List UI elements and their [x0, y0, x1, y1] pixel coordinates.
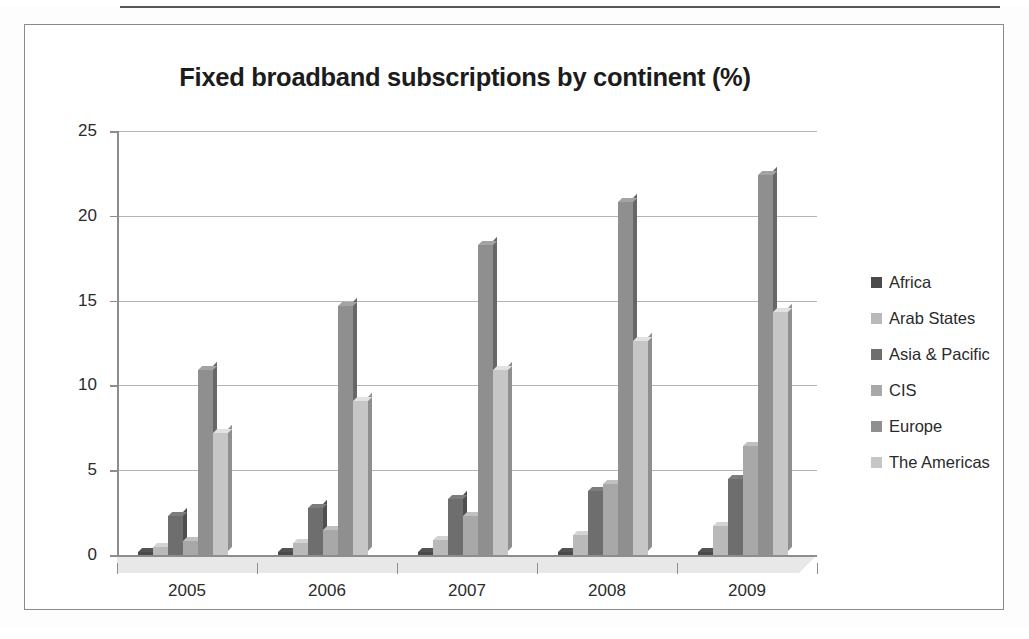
bar	[448, 499, 463, 555]
plot-area	[117, 131, 817, 555]
bar-side	[788, 304, 792, 551]
bar	[323, 530, 338, 555]
bar	[183, 541, 198, 555]
y-axis-tick	[110, 301, 117, 303]
bar-face	[338, 306, 353, 555]
bar	[588, 491, 603, 555]
bar-face	[183, 541, 198, 555]
bar-face	[198, 370, 213, 555]
x-axis-tick-label: 2009	[692, 581, 802, 601]
bar-face	[353, 401, 368, 555]
legend-item[interactable]: The Americas	[871, 453, 1021, 471]
x-axis-tick	[677, 563, 678, 574]
bar-face	[213, 433, 228, 555]
bar	[168, 516, 183, 555]
x-axis-labels: 20052006200720082009	[117, 581, 817, 609]
bar	[278, 552, 293, 555]
bar-face	[603, 484, 618, 555]
bar	[308, 508, 323, 555]
x-axis-tick	[117, 563, 118, 574]
legend-item[interactable]: Asia & Pacific	[871, 345, 1021, 363]
bar-face	[493, 370, 508, 555]
x-axis-tick	[257, 563, 258, 574]
chart-frame: Fixed broadband subscriptions by contine…	[24, 24, 1004, 610]
bar-face	[633, 341, 648, 555]
y-axis-line	[117, 131, 119, 555]
bar	[728, 479, 743, 555]
y-axis-tick-label: 0	[51, 545, 97, 565]
legend-swatch-icon	[871, 349, 882, 360]
bar-group	[278, 131, 368, 555]
bar	[198, 370, 213, 555]
bar	[773, 312, 788, 555]
bar	[338, 306, 353, 555]
x-axis-tick-label: 2007	[412, 581, 522, 601]
legend-swatch-icon	[871, 313, 882, 324]
bar-side	[508, 362, 512, 551]
bar-face	[323, 530, 338, 555]
legend-item[interactable]: Europe	[871, 417, 1021, 435]
legend-item-label: CIS	[889, 381, 917, 400]
bar-face	[153, 547, 168, 555]
chart-title: Fixed broadband subscriptions by contine…	[25, 63, 905, 92]
y-axis-tick	[110, 555, 117, 557]
bar-group	[418, 131, 508, 555]
scan-margin-bottom	[0, 628, 1029, 639]
bar	[713, 526, 728, 555]
bar-face	[588, 491, 603, 555]
x-axis-tick-label: 2006	[272, 581, 382, 601]
y-axis-tick	[110, 131, 117, 133]
legend-item[interactable]: Arab States	[871, 309, 1021, 327]
bar-face	[308, 508, 323, 555]
bar-face	[743, 446, 758, 555]
bar-face	[698, 552, 713, 555]
bar-face	[278, 552, 293, 555]
bar	[418, 552, 433, 555]
bar-group	[698, 131, 788, 555]
bar-face	[573, 535, 588, 555]
bar-face	[293, 543, 308, 555]
bar	[618, 202, 633, 555]
bar-face	[168, 516, 183, 555]
scan-rule-line	[120, 6, 1000, 8]
legend-swatch-icon	[871, 277, 882, 288]
x-axis-tick	[397, 563, 398, 574]
x-axis-tick-label: 2005	[132, 581, 242, 601]
bar	[353, 401, 368, 555]
chart-legend: AfricaArab StatesAsia & PacificCISEurope…	[871, 273, 1021, 489]
bar	[293, 543, 308, 555]
bar	[463, 516, 478, 555]
y-axis-labels: 0510152025	[51, 131, 97, 555]
y-axis-tick	[110, 216, 117, 218]
y-axis-tick-label: 15	[51, 291, 97, 311]
legend-swatch-icon	[871, 421, 882, 432]
y-axis-tick	[110, 470, 117, 472]
x-axis-tick	[817, 563, 818, 574]
x-axis-tick	[537, 563, 538, 574]
bar	[698, 552, 713, 555]
bar	[743, 446, 758, 555]
bar-face	[618, 202, 633, 555]
legend-swatch-icon	[871, 457, 882, 468]
legend-item-label: Europe	[889, 417, 942, 436]
bar-face	[713, 526, 728, 555]
bar-face	[463, 516, 478, 555]
legend-item[interactable]: CIS	[871, 381, 1021, 399]
y-axis-tick	[110, 385, 117, 387]
bar-group	[558, 131, 648, 555]
bar-group	[138, 131, 228, 555]
bar	[213, 433, 228, 555]
bar	[758, 175, 773, 555]
bar-face	[448, 499, 463, 555]
y-axis-tick-label: 20	[51, 206, 97, 226]
legend-item-label: The Americas	[889, 453, 990, 472]
legend-item-label: Asia & Pacific	[889, 345, 990, 364]
bar-face	[138, 552, 153, 555]
bar-side	[648, 333, 652, 551]
legend-item[interactable]: Africa	[871, 273, 1021, 291]
bar-side	[368, 393, 372, 551]
bar	[633, 341, 648, 555]
x-axis-line	[117, 555, 817, 557]
bar	[433, 540, 448, 555]
bar	[478, 245, 493, 555]
